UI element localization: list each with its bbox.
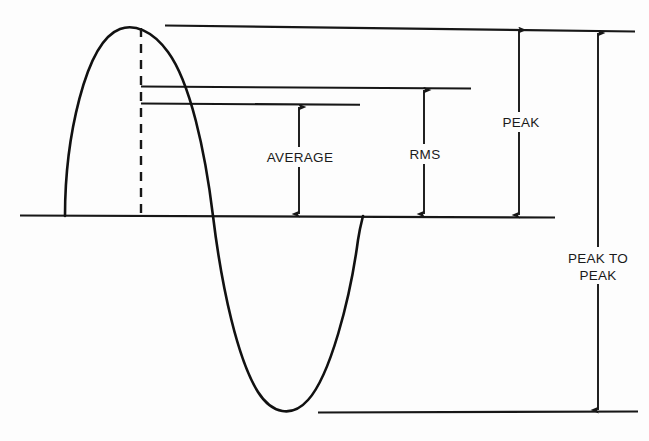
peak-to-peak-label-line1: PEAK TO xyxy=(568,251,628,266)
diagram-canvas: AVERAGE RMS PEAK PEAK TO PEAK xyxy=(0,0,649,441)
average-label: AVERAGE xyxy=(267,150,333,165)
peak-label: PEAK xyxy=(502,115,539,130)
rms-label: RMS xyxy=(410,147,441,162)
zero-baseline xyxy=(20,216,555,218)
sine-waveform xyxy=(65,27,363,411)
peak-to-peak-label-line2: PEAK xyxy=(579,268,616,283)
rms-reference-line xyxy=(141,87,471,89)
average-reference-line xyxy=(141,104,360,105)
positive-peak-reference-line xyxy=(165,26,635,32)
negative-peak-reference-line xyxy=(318,412,638,413)
waveform-diagram: AVERAGE RMS PEAK PEAK TO PEAK xyxy=(0,0,649,441)
